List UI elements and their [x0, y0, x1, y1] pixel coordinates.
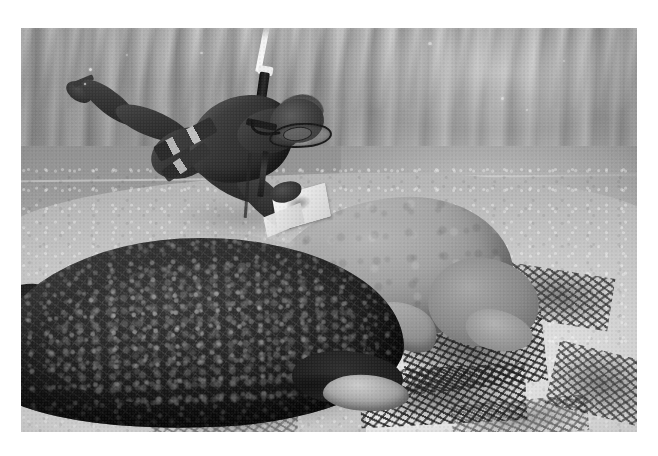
- photograph: [21, 28, 637, 432]
- bubble: [428, 42, 432, 45]
- screenshot-canvas: Snorkeler recording data beside two rest…: [0, 0, 658, 456]
- bubble: [526, 109, 528, 111]
- bubble: [84, 83, 86, 85]
